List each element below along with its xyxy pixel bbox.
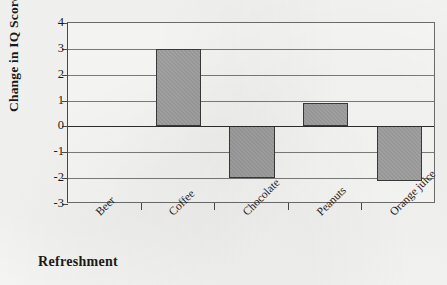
bar xyxy=(156,49,201,127)
y-axis-tick-label: -3 xyxy=(24,197,64,210)
bar xyxy=(377,126,422,180)
bar xyxy=(303,103,348,126)
plot-area xyxy=(67,22,435,203)
x-axis-tick xyxy=(214,203,215,210)
gridline xyxy=(68,49,434,50)
y-axis-tick-label: -2 xyxy=(24,171,64,184)
bar xyxy=(229,126,274,178)
y-axis-tick-label: 0 xyxy=(24,119,64,132)
x-axis-title: Refreshment xyxy=(38,254,118,270)
y-axis-tick-label: 1 xyxy=(24,93,64,106)
zero-gridline xyxy=(68,126,434,127)
y-axis-tick-label: -1 xyxy=(24,145,64,158)
x-axis-tick xyxy=(288,203,289,210)
gridline xyxy=(68,75,434,76)
y-axis-tick-label: 2 xyxy=(24,67,64,80)
y-axis-tick-label: 4 xyxy=(24,16,64,29)
y-axis-title: Change in IQ Score xyxy=(6,0,22,112)
x-axis-tick xyxy=(361,203,362,210)
y-axis-tick-label: 3 xyxy=(24,42,64,55)
x-axis-tick xyxy=(141,203,142,210)
chart-figure: Change in IQ Score 43210-1-2-3 BeerCoffe… xyxy=(0,0,447,285)
gridline xyxy=(68,101,434,102)
